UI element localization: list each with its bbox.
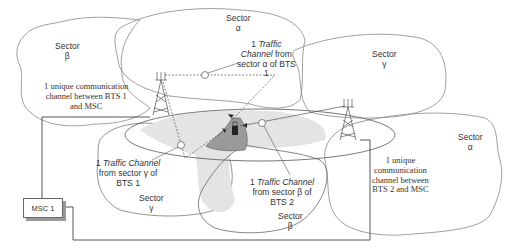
sector-symbol: α bbox=[458, 143, 483, 153]
msc-node: MSC 1 bbox=[23, 198, 63, 218]
annotation-bts2-msc-channel: 1 unique communication channel between B… bbox=[372, 156, 429, 195]
callout-circle-beta bbox=[259, 120, 266, 127]
cloud-bts2-sector-gamma bbox=[293, 34, 446, 118]
annotation-line: and MSC bbox=[44, 102, 129, 112]
count: 1 bbox=[251, 39, 256, 49]
sector-symbol: β bbox=[278, 222, 303, 232]
sector-symbol: α bbox=[226, 24, 251, 34]
soft-handoff-diagram: Sector β Sector α Sector γ Sector α Sect… bbox=[0, 0, 511, 252]
bts2-tower-icon bbox=[340, 99, 356, 140]
term-channel: Channel bbox=[241, 49, 273, 59]
diagram-canvas bbox=[0, 0, 511, 252]
label-bts2-sector-gamma: Sector γ bbox=[372, 50, 397, 70]
leader-alpha bbox=[208, 63, 238, 73]
label-bts1-sector-gamma: Sector γ bbox=[139, 194, 164, 214]
annotation-bts1-msc-channel: 1 unique communication channel between B… bbox=[44, 82, 129, 111]
sector-symbol: γ bbox=[372, 60, 397, 70]
term-traffic-channel: Traffic Channel bbox=[257, 177, 314, 187]
callout-circle-alpha bbox=[202, 72, 209, 79]
count: 1 bbox=[250, 177, 255, 187]
label-bts1-sector-beta: Sector β bbox=[55, 42, 80, 62]
annotation-text: from bbox=[275, 49, 292, 59]
annotation-line: BTS 2 and MSC bbox=[372, 185, 429, 195]
sector-symbol: β bbox=[55, 52, 80, 62]
count: 1 bbox=[96, 158, 101, 168]
annotation-line: 1 bbox=[237, 69, 296, 79]
msc-label: MSC 1 bbox=[32, 204, 55, 213]
annotation-line: BTS 2 bbox=[250, 198, 314, 208]
label-bts2-sector-alpha: Sector α bbox=[458, 133, 483, 153]
sector-symbol: γ bbox=[139, 204, 164, 214]
callout-circle-gamma bbox=[178, 142, 185, 149]
annotation-line: BTS 1 bbox=[96, 179, 160, 189]
annotation-traffic-channel-gamma-bts1: 1 Traffic Channel from sector γ of BTS 1 bbox=[96, 159, 160, 188]
term-traffic: Traffic bbox=[258, 39, 281, 49]
label-bts2-sector-beta: Sector β bbox=[278, 212, 303, 232]
annotation-traffic-channel-beta-bts2: 1 Traffic Channel from sector β of BTS 2 bbox=[250, 178, 314, 207]
label-bts1-sector-alpha: Sector α bbox=[226, 14, 251, 34]
term-traffic-channel: Traffic Channel bbox=[103, 158, 160, 168]
annotation-traffic-channel-alpha-bts1: 1 Traffic Channel from sector α of BTS 1 bbox=[237, 40, 296, 79]
